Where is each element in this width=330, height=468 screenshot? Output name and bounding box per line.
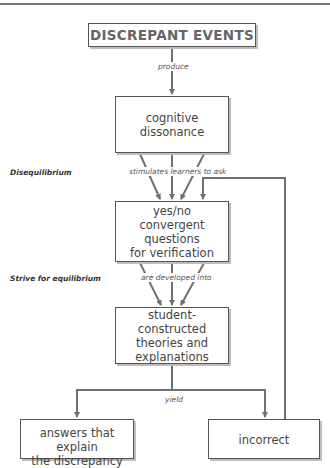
edge-label-yield: yield <box>164 395 184 404</box>
node-answers: answers that explain the discrepancy <box>20 419 134 459</box>
stage-label-disequilibrium: Disequilibrium <box>10 168 72 177</box>
edge-label-developed: are developed into <box>140 273 213 282</box>
edge-label-produce: produce <box>157 62 190 71</box>
edge-label-stimulates: stimulates learners to ask <box>128 167 227 176</box>
arrow-stimulates-right <box>181 154 204 199</box>
node-cognitive-dissonance: cognitive dissonance <box>115 96 229 153</box>
arrow-yield-answers <box>77 390 172 417</box>
node-student-theories: student-constructed theories and explana… <box>115 307 229 364</box>
node-discrepant-events: DISCREPANT EVENTS <box>88 23 256 47</box>
node-incorrect: incorrect <box>208 419 320 459</box>
arrow-stimulates-left <box>140 154 160 199</box>
node-convergent-questions: yes/no convergent questions for verifica… <box>115 201 229 262</box>
arrow-developed-right <box>181 263 204 305</box>
arrow-developed-left <box>140 263 161 305</box>
stage-label-equilibrium: Strive for equilibrium <box>10 274 101 283</box>
arrow-yield-incorrect <box>172 390 265 417</box>
